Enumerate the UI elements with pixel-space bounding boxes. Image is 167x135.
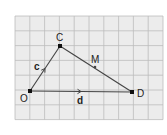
point-marker-D (130, 90, 134, 94)
point-label-D: D (137, 88, 144, 99)
vector-label-d: d (77, 95, 83, 106)
point-label-M: M (91, 54, 99, 65)
vector-label-c: c (34, 61, 40, 72)
point-label-C: C (56, 32, 63, 43)
point-marker-M (94, 66, 97, 69)
point-marker-C (58, 44, 62, 48)
point-marker-O (28, 89, 32, 93)
vector-diagram: cd OCDM (0, 0, 167, 135)
point-label-O: O (20, 93, 28, 104)
